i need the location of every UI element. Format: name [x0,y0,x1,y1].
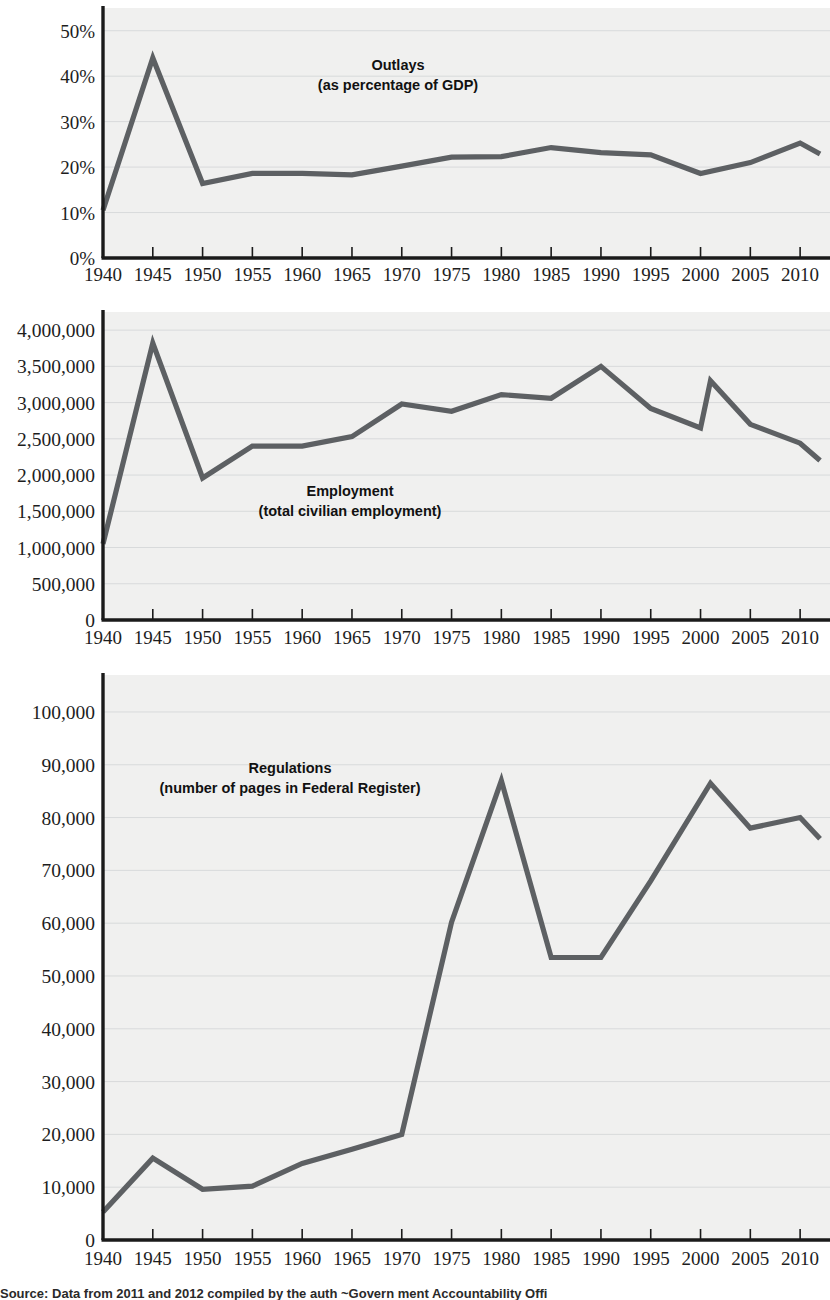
y-tick-label: 90,000 [41,755,95,776]
x-tick-label: 2005 [731,264,769,285]
x-tick-label: 1975 [433,1248,471,1269]
y-tick-label: 80,000 [41,808,95,829]
x-tick-label: 1940 [84,264,122,285]
x-tick-label: 1990 [582,264,620,285]
y-tick-label: 30,000 [41,1072,95,1093]
x-tick-label: 1985 [532,264,570,285]
x-tick-label: 1970 [383,1248,421,1269]
x-tick-label: 1990 [582,627,620,648]
x-tick-label: 2010 [781,1248,819,1269]
y-tick-label: 10,000 [41,1177,95,1198]
x-tick-label: 1975 [433,264,471,285]
series-subtitle-employment: (total civilian employment) [259,503,442,519]
x-tick-label: 1980 [482,1248,520,1269]
x-tick-label: 1965 [333,264,371,285]
x-tick-label: 1950 [184,264,222,285]
x-tick-label: 1940 [84,1248,122,1269]
y-tick-label: 1,500,000 [17,501,95,522]
y-tick-label: 2,000,000 [17,465,95,486]
x-tick-label: 2010 [781,264,819,285]
y-tick-label: 500,000 [32,574,95,595]
x-tick-label: 2010 [781,627,819,648]
y-tick-label: 70,000 [41,860,95,881]
y-tick-label: 20% [60,157,95,178]
y-tick-label: 50% [60,21,95,42]
y-tick-label: 20,000 [41,1124,95,1145]
outlays-chart-svg: 0%10%20%30%40%50%19401945195019551960196… [0,0,830,292]
x-tick-label: 1955 [233,1248,271,1269]
x-tick-label: 2005 [731,1248,769,1269]
y-tick-label: 50,000 [41,966,95,987]
x-tick-label: 1995 [632,627,670,648]
employment-chart-svg: 0500,0001,000,0001,500,0002,000,0002,500… [0,300,830,658]
y-tick-label: 40% [60,66,95,87]
x-tick-label: 1980 [482,264,520,285]
series-subtitle-regulations: (number of pages in Federal Register) [159,780,420,796]
y-tick-label: 1,000,000 [17,538,95,559]
y-tick-label: 4,000,000 [17,320,95,341]
series-title-regulations: Regulations [249,760,332,776]
y-tick-label: 10% [60,203,95,224]
x-tick-label: 1955 [233,264,271,285]
y-tick-label: 3,000,000 [17,393,95,414]
chart-panel-employment: 0500,0001,000,0001,500,0002,000,0002,500… [0,300,830,658]
x-tick-label: 2005 [731,627,769,648]
x-tick-label: 1995 [632,1248,670,1269]
chart-panel-regulations: 010,00020,00030,00040,00050,00060,00070,… [0,665,830,1283]
x-tick-label: 2000 [682,1248,720,1269]
x-tick-label: 1975 [433,627,471,648]
x-tick-label: 1995 [632,264,670,285]
x-tick-label: 1960 [283,1248,321,1269]
x-tick-label: 1950 [184,1248,222,1269]
series-title-employment: Employment [306,483,393,499]
source-note: Source: Data from 2011 and 2012 compiled… [0,1286,830,1300]
x-tick-label: 1960 [283,627,321,648]
x-tick-label: 1980 [482,627,520,648]
x-tick-label: 1990 [582,1248,620,1269]
x-tick-label: 1940 [84,627,122,648]
y-tick-label: 2,500,000 [17,429,95,450]
x-tick-label: 1965 [333,627,371,648]
x-tick-label: 1965 [333,1248,371,1269]
x-tick-label: 1945 [134,1248,172,1269]
x-tick-label: 1950 [184,627,222,648]
y-tick-label: 40,000 [41,1019,95,1040]
regulations-chart-svg: 010,00020,00030,00040,00050,00060,00070,… [0,665,830,1283]
chart-panel-outlays: 0%10%20%30%40%50%19401945195019551960196… [0,0,830,292]
x-tick-label: 1945 [134,264,172,285]
y-tick-label: 30% [60,112,95,133]
x-tick-label: 1955 [233,627,271,648]
y-tick-label: 60,000 [41,913,95,934]
x-tick-label: 1985 [532,627,570,648]
y-tick-label: 100,000 [32,702,95,723]
x-tick-label: 1945 [134,627,172,648]
x-tick-label: 1985 [532,1248,570,1269]
x-tick-label: 2000 [682,627,720,648]
x-tick-label: 2000 [682,264,720,285]
x-tick-label: 1970 [383,627,421,648]
y-tick-label: 3,500,000 [17,356,95,377]
series-subtitle-outlays: (as percentage of GDP) [318,77,479,93]
figure-container: 0%10%20%30%40%50%19401945195019551960196… [0,0,830,1300]
x-tick-label: 1970 [383,264,421,285]
x-tick-label: 1960 [283,264,321,285]
series-title-outlays: Outlays [371,57,424,73]
